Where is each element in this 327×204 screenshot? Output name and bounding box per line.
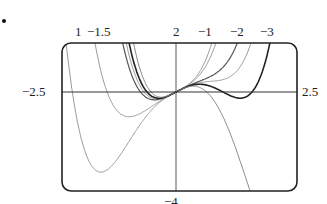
plot-frame (62, 43, 297, 191)
plot-area (0, 0, 327, 204)
